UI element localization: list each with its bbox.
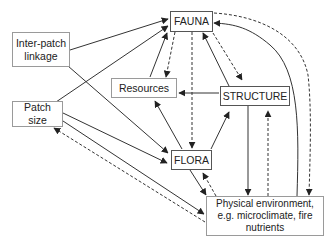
- edge-flora-resources: [155, 101, 182, 149]
- node-physical-environment-label: Physical environment, e.g. microclimate,…: [216, 198, 314, 234]
- node-physical-environment: Physical environment, e.g. microclimate,…: [206, 196, 324, 236]
- edge-resources-fauna: [150, 33, 167, 77]
- node-inter-patch-linkage: Inter-patch linkage: [12, 32, 70, 67]
- node-resources-label: Resources: [119, 82, 169, 95]
- node-resources: Resources: [111, 78, 177, 98]
- node-structure-label: STRUCTURE: [223, 90, 288, 103]
- node-fauna-label: FAUNA: [174, 15, 209, 28]
- node-fauna: FAUNA: [170, 11, 213, 32]
- node-structure: STRUCTURE: [220, 86, 290, 106]
- edge-structure-fauna: [203, 33, 229, 86]
- node-patch-size: Patch size: [12, 101, 63, 127]
- node-flora-label: FLORA: [174, 154, 209, 167]
- edge-physenv-patchsize: [54, 128, 205, 222]
- edge-fauna-resources: [166, 32, 175, 77]
- edge-physenv-fauna: [214, 23, 298, 196]
- node-patch-size-label: Patch size: [24, 101, 51, 127]
- node-inter-patch-linkage-label: Inter-patch linkage: [16, 37, 66, 63]
- edge-fauna-structure: [213, 33, 242, 80]
- edge-flora-structure: [211, 112, 229, 149]
- node-flora: FLORA: [171, 150, 212, 170]
- edge-interpatch-fauna: [70, 19, 168, 50]
